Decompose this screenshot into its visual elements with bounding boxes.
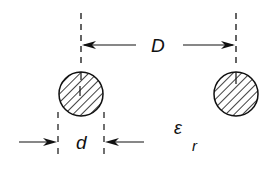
- left-conductor: [59, 72, 103, 116]
- spacing-label: D: [151, 35, 165, 56]
- permittivity-symbol: ε: [174, 118, 183, 138]
- right-conductor: [214, 72, 258, 116]
- two-wire-line-diagram: D d ε r: [0, 0, 272, 169]
- permittivity-subscript: r: [192, 137, 198, 154]
- diameter-label: d: [76, 132, 88, 153]
